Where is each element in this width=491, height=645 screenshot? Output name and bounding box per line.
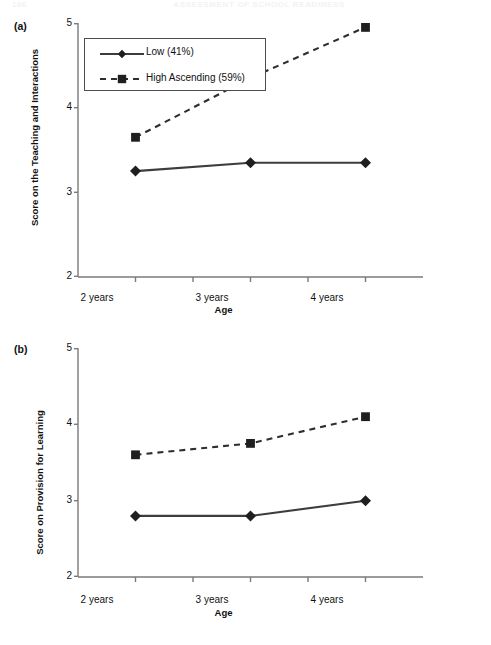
y-tick-a-5: 5 <box>56 18 72 28</box>
legend-label-low-a: Low (41%) <box>146 46 194 57</box>
y-tick-b-4: 4 <box>56 418 72 428</box>
x-tick-a-3years: 3 years <box>172 292 252 303</box>
chart-svg-b <box>78 348 423 577</box>
y-tick-a-2: 2 <box>56 271 72 281</box>
legend-item-low-a: Low (41%) <box>85 39 265 65</box>
data-point-marker <box>360 157 371 168</box>
x-tick-a-2years: 2 years <box>57 292 137 303</box>
y-tick-b-5: 5 <box>56 343 72 353</box>
y-tick-b-3: 3 <box>56 495 72 505</box>
data-point-marker <box>130 166 141 177</box>
series-line-high-b <box>136 417 366 455</box>
y-tick-b-2: 2 <box>56 571 72 581</box>
x-tick-b-4years: 4 years <box>287 594 367 605</box>
y-axis-label-b: Score on Provision for Learning <box>34 383 45 583</box>
data-point-marker <box>245 510 256 521</box>
data-point-marker <box>245 157 256 168</box>
x-tick-b-3years: 3 years <box>172 594 252 605</box>
chart-panel-b: (b) Score on Provision for Learning <box>0 322 491 642</box>
legend-label-high-ascending-a: High Ascending (59%) <box>146 72 245 83</box>
data-point-marker <box>131 133 140 142</box>
legend-swatch-solid-diamond-icon <box>99 46 145 58</box>
data-point-marker <box>361 412 370 421</box>
x-tick-b-2years: 2 years <box>57 594 137 605</box>
page-number: 106 <box>12 0 27 9</box>
x-axis-label-b: Age <box>0 607 469 618</box>
data-point-marker <box>361 23 370 32</box>
page-header: 106 ASSESSMENT OF SCHOOL READINESS <box>0 0 491 12</box>
x-tick-a-4years: 4 years <box>287 292 367 303</box>
y-tick-a-3: 3 <box>56 187 72 197</box>
data-point-marker <box>246 439 255 448</box>
y-axis-label-a: Score on the Teaching and Interactions <box>29 38 40 238</box>
legend-swatch-dashed-square-icon <box>99 71 145 83</box>
x-axis-label-a: Age <box>0 304 469 315</box>
data-point-marker <box>130 510 141 521</box>
chart-panel-a: (a) Score on the Teaching and Interactio… <box>0 14 491 314</box>
legend-item-high-ascending-a: High Ascending (59%) <box>85 65 265 91</box>
plot-area-b: 5 4 3 2 <box>78 348 423 577</box>
y-tick-a-4: 4 <box>56 102 72 112</box>
panel-label-b: (b) <box>14 343 27 355</box>
panel-label-a: (a) <box>14 20 27 32</box>
data-point-marker <box>131 450 140 459</box>
data-point-marker <box>360 495 371 506</box>
legend-a: Low (41%) High Ascending (59%) <box>84 38 266 91</box>
page-header-title: ASSESSMENT OF SCHOOL READINESS <box>173 0 345 9</box>
